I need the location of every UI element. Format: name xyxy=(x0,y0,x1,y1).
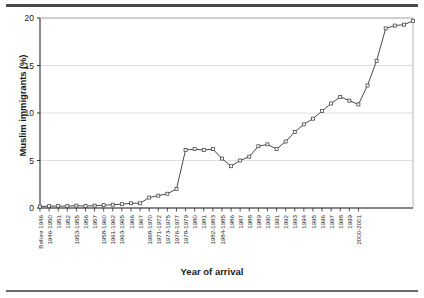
x-tick-label: 1976-1977 xyxy=(173,214,180,244)
data-point-marker xyxy=(84,205,87,208)
data-point-marker xyxy=(402,23,405,26)
data-point-marker xyxy=(129,202,132,205)
data-point-marker xyxy=(166,192,169,195)
data-point-marker xyxy=(48,205,51,208)
data-point-marker xyxy=(139,202,142,205)
x-tick-label: 1961-1962 xyxy=(109,214,116,244)
data-point-marker xyxy=(111,203,114,206)
data-point-marker xyxy=(393,24,396,27)
line-chart-plot: 05101520Before 19461946-1950195119521953… xyxy=(0,0,424,298)
data-point-marker xyxy=(93,204,96,207)
data-point-marker xyxy=(339,95,342,98)
figure-container: Muslim immigrants (%) 05101520Before 194… xyxy=(0,0,424,298)
x-tick-label: 1992 xyxy=(282,214,289,228)
x-tick-label: 1973-1975 xyxy=(164,214,171,244)
data-point-marker xyxy=(39,205,42,208)
data-point-marker xyxy=(202,149,205,152)
data-point-marker xyxy=(284,140,287,143)
x-tick-label: 2000-2001 xyxy=(355,214,362,244)
data-point-marker xyxy=(275,148,278,151)
data-point-marker xyxy=(66,205,69,208)
data-point-marker xyxy=(211,148,214,151)
data-point-marker xyxy=(102,204,105,207)
x-tick-label: 1999 xyxy=(346,214,353,228)
x-tick-label: 1982-1983 xyxy=(209,214,216,244)
data-point-marker xyxy=(148,196,151,199)
data-point-marker xyxy=(220,157,223,160)
data-point-marker xyxy=(75,204,78,207)
x-tick-label: 1952 xyxy=(64,214,71,228)
x-tick-label: 1986 xyxy=(228,214,235,228)
x-tick-label: 1987 xyxy=(237,214,244,228)
x-tick-label: 1966 xyxy=(128,214,135,228)
x-tick-label: 1998 xyxy=(337,214,344,228)
data-point-marker xyxy=(57,205,60,208)
x-tick-label: 1956 xyxy=(82,214,89,228)
data-point-marker xyxy=(321,110,324,113)
x-tick-label: 1984-1985 xyxy=(219,214,226,244)
x-tick-label: 1994 xyxy=(300,214,307,228)
x-tick-label: 1993 xyxy=(291,214,298,228)
y-tick-label: 0 xyxy=(29,203,34,213)
y-tick-label: 15 xyxy=(25,61,35,71)
x-tick-label: 1958-1960 xyxy=(100,214,107,244)
x-tick-label: 1946-1950 xyxy=(46,214,53,244)
data-point-marker xyxy=(184,149,187,152)
x-tick-label: 1957 xyxy=(91,214,98,228)
data-point-marker xyxy=(357,103,360,106)
x-tick-label: Before 1946 xyxy=(37,214,44,248)
y-tick-label: 5 xyxy=(29,156,34,166)
x-tick-label: 1980 xyxy=(191,214,198,228)
data-point-marker xyxy=(330,102,333,105)
x-tick-label: 1978-1979 xyxy=(182,214,189,244)
x-tick-label: 1971-1972 xyxy=(155,214,162,244)
data-point-marker xyxy=(230,165,233,168)
x-tick-label: 1968-1970 xyxy=(146,214,153,244)
data-point-marker xyxy=(120,203,123,206)
bottom-rule xyxy=(6,290,418,292)
x-tick-label: 1990 xyxy=(264,214,271,228)
x-tick-label: 1981 xyxy=(200,214,207,228)
data-point-marker xyxy=(193,148,196,151)
data-point-marker xyxy=(384,27,387,30)
data-point-marker xyxy=(311,117,314,120)
data-point-marker xyxy=(348,99,351,102)
x-tick-label: 1997 xyxy=(328,214,335,228)
data-line xyxy=(40,21,413,207)
x-axis-title: Year of arrival xyxy=(0,266,424,277)
data-point-marker xyxy=(266,143,269,146)
y-tick-label: 10 xyxy=(25,108,35,118)
data-point-marker xyxy=(293,131,296,134)
x-tick-label: 1988 xyxy=(246,214,253,228)
data-point-marker xyxy=(157,194,160,197)
x-tick-label: 1996 xyxy=(319,214,326,228)
data-point-marker xyxy=(366,84,369,87)
x-tick-label: 1963-1965 xyxy=(118,214,125,244)
x-tick-label: 1967 xyxy=(137,214,144,228)
x-tick-label: 1989 xyxy=(255,214,262,228)
data-point-marker xyxy=(239,159,242,162)
data-point-marker xyxy=(412,19,415,22)
data-point-marker xyxy=(175,188,178,191)
x-tick-label: 1951 xyxy=(55,214,62,228)
x-tick-label: 1953-1955 xyxy=(73,214,80,244)
x-tick-label: 1995 xyxy=(310,214,317,228)
data-point-marker xyxy=(302,123,305,126)
data-point-marker xyxy=(257,145,260,148)
x-tick-label: 1991 xyxy=(273,214,280,228)
data-point-marker xyxy=(248,155,251,158)
data-point-marker xyxy=(375,59,378,62)
y-tick-label: 20 xyxy=(25,13,35,23)
